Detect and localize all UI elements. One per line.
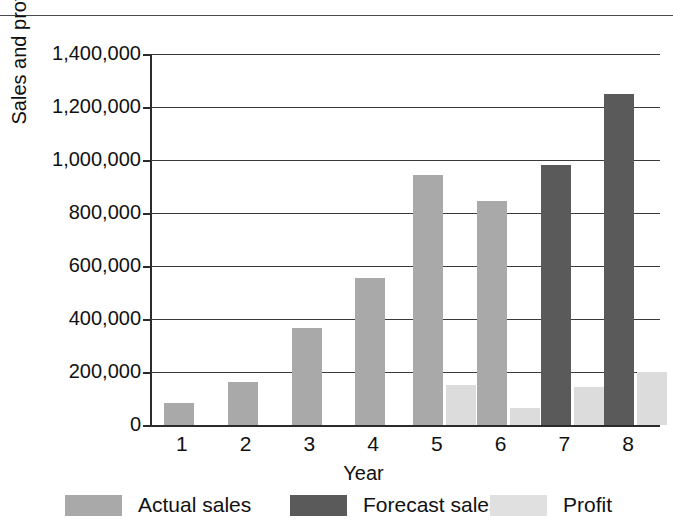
y-axis-tick-label: 1,000,000 xyxy=(52,149,141,169)
bar-actual-year-1 xyxy=(164,403,194,425)
legend-label-profit: Profit xyxy=(563,494,612,516)
y-axis-tick-label: 1,200,000 xyxy=(52,96,141,116)
legend-item-profit: Profit xyxy=(490,494,612,516)
gridline xyxy=(150,54,660,55)
x-axis-tick-label: 3 xyxy=(278,432,342,456)
legend-item-forecast: Forecast sales xyxy=(290,494,500,516)
gridline xyxy=(150,372,660,373)
x-axis-tick-label: 5 xyxy=(405,432,469,456)
gridline xyxy=(150,319,660,320)
y-axis-tick-label: 200,000 xyxy=(69,361,141,381)
gridline xyxy=(150,266,660,267)
y-axis-tick xyxy=(143,160,151,162)
y-axis-tick xyxy=(143,425,151,427)
x-axis-line xyxy=(143,425,660,427)
chart-figure: 0200,000400,000600,000800,0001,000,0001,… xyxy=(0,0,673,527)
x-axis-title: Year xyxy=(0,462,673,485)
x-axis-tick-label: 2 xyxy=(214,432,278,456)
y-axis-tick xyxy=(143,372,151,374)
legend-swatch-actual xyxy=(65,495,122,516)
bar-actual-year-4 xyxy=(355,278,385,425)
bar-profit-year-8 xyxy=(637,372,667,425)
legend-label-forecast: Forecast sales xyxy=(363,494,500,516)
gridline xyxy=(150,160,660,161)
legend-swatch-profit xyxy=(490,495,547,516)
bar-profit-year-7 xyxy=(574,387,604,425)
bar-actual-year-5 xyxy=(413,175,443,425)
x-axis-tick-label: 6 xyxy=(469,432,533,456)
bar-profit-year-5 xyxy=(446,385,476,425)
x-axis-tick-label: 4 xyxy=(341,432,405,456)
y-axis-tick-label: 800,000 xyxy=(69,202,141,222)
y-axis-tick-label: 0 xyxy=(130,414,141,434)
gridline xyxy=(150,107,660,108)
legend-swatch-forecast xyxy=(290,495,347,516)
legend-label-actual: Actual sales xyxy=(138,494,251,516)
y-axis-tick xyxy=(143,54,151,56)
bar-actual-year-6 xyxy=(477,201,507,425)
y-axis-tick-label: 600,000 xyxy=(69,255,141,275)
x-axis-tick-label: 8 xyxy=(596,432,660,456)
x-axis-title-text: Year xyxy=(343,462,383,485)
y-axis-tick-label: 1,400,000 xyxy=(52,43,141,63)
y-axis-tick xyxy=(143,107,151,109)
x-axis-tick-label: 7 xyxy=(533,432,597,456)
chart-legend: Actual salesForecast salesProfit xyxy=(0,494,673,524)
y-axis-tick xyxy=(143,213,151,215)
legend-item-actual: Actual sales xyxy=(65,494,251,516)
bar-actual-year-2 xyxy=(228,382,258,425)
bar-profit-year-6 xyxy=(510,408,540,425)
gridline xyxy=(150,213,660,214)
y-axis-title: Sales and profit xyxy=(8,0,31,170)
y-axis-tick xyxy=(143,319,151,321)
plot-area xyxy=(150,54,660,425)
bar-forecast-year-8 xyxy=(604,94,634,425)
bar-actual-year-3 xyxy=(292,328,322,425)
y-axis-tick-label: 400,000 xyxy=(69,308,141,328)
y-axis-tick xyxy=(143,266,151,268)
x-axis-tick-label: 1 xyxy=(150,432,214,456)
bar-forecast-year-7 xyxy=(541,165,571,425)
